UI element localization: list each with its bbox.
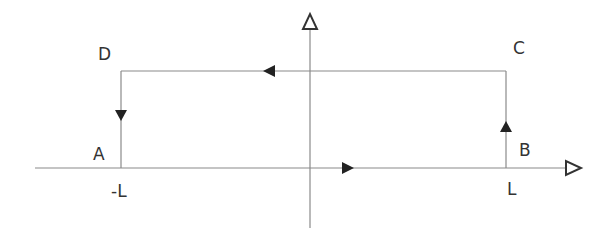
arrow-down-icon	[115, 110, 127, 121]
tick-label-neg-l: -L	[111, 183, 127, 200]
point-label-d: D	[98, 46, 111, 63]
cycle-diagram	[0, 0, 613, 229]
tick-label-pos-l: L	[507, 181, 516, 198]
point-label-a: A	[93, 146, 105, 163]
arrow-right-icon	[342, 162, 354, 174]
arrow-left-icon	[263, 65, 275, 77]
point-label-c: C	[513, 40, 525, 57]
point-label-b: B	[519, 142, 531, 159]
vertical-axis-arrow-icon	[303, 14, 317, 29]
horizontal-axis-arrow-icon	[566, 161, 581, 175]
arrow-up-icon	[500, 121, 512, 132]
